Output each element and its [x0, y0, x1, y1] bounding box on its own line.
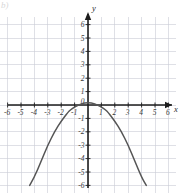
y-tick-label: 2 [81, 74, 85, 83]
y-tick-label: -2 [78, 127, 84, 136]
x-tick-labels: -6-5-4-3-2-1123456 [4, 108, 170, 117]
graph-figure: b) -6-5-4-3-2-1123456 -6-5-4-3-2-1123456… [0, 0, 185, 195]
x-tick-label: 6 [166, 108, 170, 117]
x-tick-label: -3 [44, 108, 50, 117]
x-tick-label: -6 [4, 108, 10, 117]
coordinate-plane: -6-5-4-3-2-1123456 -6-5-4-3-2-11234560 x… [0, 0, 185, 195]
x-tick-label: 1 [99, 108, 103, 117]
y-tick-label: -6 [78, 181, 84, 190]
x-tick-label: -4 [31, 108, 37, 117]
y-tick-label: -4 [78, 154, 84, 163]
y-axis-label: y [91, 3, 96, 13]
x-tick-label: 4 [139, 108, 143, 117]
x-tick-label: -5 [17, 108, 23, 117]
y-tick-label: 3 [80, 60, 85, 69]
y-tick-label: -3 [78, 141, 84, 150]
y-axis-arrowhead [85, 12, 91, 20]
x-tick-label: 2 [112, 108, 116, 117]
x-tick-label: -2 [58, 108, 64, 117]
x-axis-label: x [173, 104, 178, 114]
x-tick-label: 3 [125, 108, 130, 117]
x-tick-label: 5 [153, 108, 157, 117]
y-tick-label: -5 [78, 168, 84, 177]
y-tick-label: 1 [81, 87, 85, 96]
y-tick-label: -1 [78, 114, 84, 123]
y-tick-label: 6 [81, 20, 85, 29]
y-tick-label: 4 [81, 47, 85, 56]
y-tick-label: 5 [81, 34, 85, 43]
